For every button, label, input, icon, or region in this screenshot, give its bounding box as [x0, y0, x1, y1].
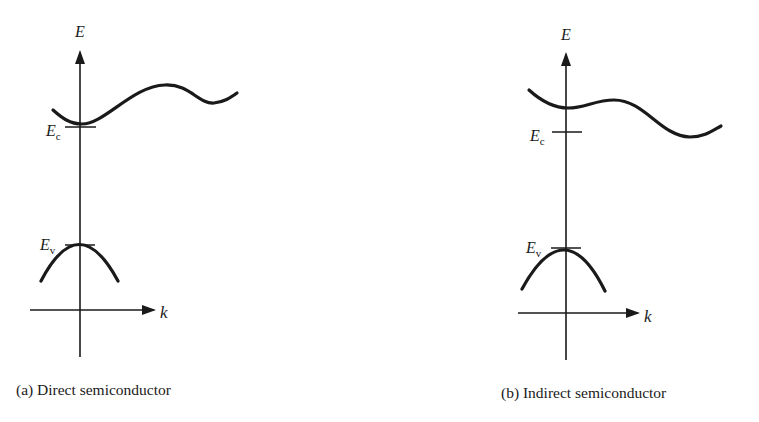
valence-band-edge-label: Ev — [39, 236, 56, 256]
valence-band-curve — [522, 250, 605, 291]
band-diagram-figure: E k Ec Ev (a) Direct semiconductor E k E… — [0, 0, 759, 422]
energy-axis-label: E — [560, 26, 571, 43]
conduction-band-edge-label: Ec — [529, 127, 545, 147]
caption-direct: (a) Direct semiconductor — [16, 381, 172, 399]
conduction-band-edge-label: Ec — [45, 122, 61, 142]
conduction-band-curve — [529, 90, 721, 137]
k-axis-label: k — [644, 307, 652, 326]
k-axis-label: k — [160, 303, 168, 322]
panel-direct: E k Ec Ev (a) Direct semiconductor — [16, 23, 237, 399]
caption-indirect: (b) Indirect semiconductor — [501, 384, 667, 402]
panel-indirect: E k Ec Ev (b) Indirect semiconductor — [501, 26, 721, 402]
energy-axis-label: E — [74, 23, 85, 40]
valence-band-edge-label: Ev — [525, 239, 542, 259]
